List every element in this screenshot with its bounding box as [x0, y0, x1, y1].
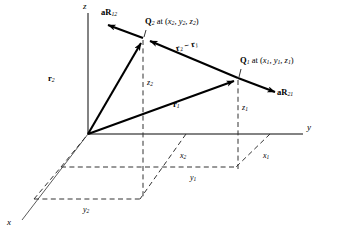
dash-left-diagonal-lower	[34, 167, 61, 199]
unit-vector-aR21-label: aR21	[277, 88, 293, 98]
vector-r2-label: r2	[48, 74, 55, 84]
aR12-subscript: 12	[111, 11, 117, 17]
projection-z1-label: z1	[242, 104, 248, 113]
projection-dashed-group	[34, 40, 270, 199]
q2-coord-y-sub: 2	[182, 20, 185, 26]
projection-x2-label: x2	[180, 152, 186, 161]
leader-line-group	[144, 30, 241, 77]
projection-z2-label: z2	[147, 79, 153, 88]
y-axis-label: y	[307, 123, 311, 132]
leader-q1	[239, 69, 241, 77]
y1-subscript: 1	[194, 176, 197, 182]
x-axis	[22, 134, 88, 220]
q2-symbol: Q	[145, 16, 152, 26]
q1-coord-x-sub: 1	[267, 59, 270, 65]
y2-subscript: 2	[87, 208, 90, 214]
projection-y2-label: y2	[83, 206, 89, 215]
z2-subscript: 2	[150, 81, 153, 87]
projection-x1-label: x1	[263, 152, 269, 161]
q2-coord-x-sub: 2	[172, 20, 175, 26]
q1-coord-y-sub: 1	[277, 59, 280, 65]
r2-subscript: 2	[52, 77, 55, 83]
projection-y1-label: y1	[190, 174, 196, 183]
z1-subscript: 1	[245, 106, 248, 112]
vector-unit-aR21	[238, 78, 275, 92]
unit-vector-aR12-label: aR12	[101, 8, 117, 18]
point-q2-label: Q2 at (x2, y2, z2)	[145, 17, 199, 27]
q1-close-text: )	[291, 55, 294, 65]
q1-at-text: at (	[250, 55, 263, 65]
vector-r2	[88, 43, 141, 134]
q2-at-text: at (	[155, 16, 168, 26]
x-axis-label: x	[7, 218, 11, 227]
z-axis-label: z	[83, 2, 87, 11]
vector-r1-label: r1	[173, 100, 180, 110]
diagram-canvas	[0, 0, 342, 239]
r1-subscript: 1	[177, 103, 180, 109]
x1-subscript: 1	[267, 154, 270, 160]
vector-r1	[88, 81, 234, 134]
dash-left-diagonal-upper	[61, 134, 88, 167]
axis-group	[22, 13, 303, 220]
point-q1-label: Q1 at (x1, y1, z1)	[240, 56, 294, 66]
q2-close-text: )	[196, 16, 199, 26]
leader-q2	[144, 30, 146, 37]
q1-symbol: Q	[240, 55, 247, 65]
x2-subscript: 2	[184, 154, 187, 160]
vector-diagram-figure: z y x aR12 aR21 Q2 at (x2, y2, z2) Q1 at…	[0, 0, 342, 239]
vector-unit-aR12	[108, 25, 143, 38]
aR21-subscript: 21	[287, 91, 293, 97]
